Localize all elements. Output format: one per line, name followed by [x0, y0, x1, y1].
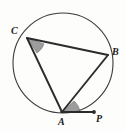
geometry-canvas — [0, 0, 125, 131]
point-label-c: C — [11, 26, 18, 36]
angle-mark-at-a — [62, 101, 80, 112]
chord-c-a — [27, 38, 62, 112]
chord-a-b — [62, 55, 108, 112]
point-label-b: B — [112, 47, 119, 57]
geometry-figure: C B A P — [0, 0, 125, 131]
point-label-a: A — [58, 117, 65, 127]
point-label-p: P — [96, 114, 102, 124]
circumscribed-circle — [13, 13, 113, 113]
